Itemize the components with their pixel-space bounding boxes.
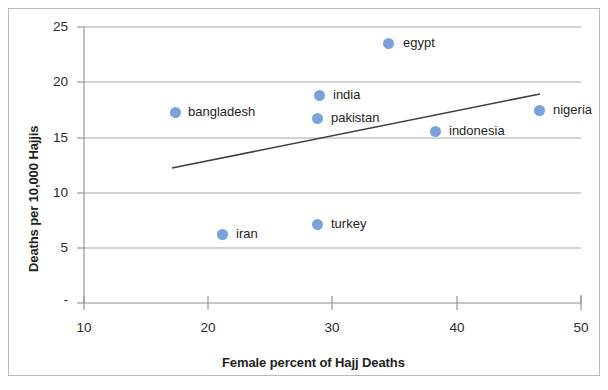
y-tick-marks (77, 27, 84, 303)
data-label-turkey: turkey (331, 216, 366, 231)
x-axis-title: Female percent of Hajj Deaths (222, 355, 405, 370)
y-axis-title: Deaths per 10,000 Hajjis (26, 126, 41, 272)
x-tick-30: 30 (312, 320, 352, 335)
y-tick-0: - (38, 292, 68, 307)
y-tick-15: 15 (38, 130, 68, 145)
axis-lines (84, 27, 581, 303)
data-point-pakistan (312, 113, 323, 124)
data-point-nigeria (534, 105, 545, 116)
x-tick-10: 10 (64, 320, 104, 335)
y-tick-5: 5 (38, 240, 68, 255)
y-tick-25: 25 (38, 19, 68, 34)
x-tick-50: 50 (561, 320, 601, 335)
data-label-indonesia: indonesia (449, 123, 505, 138)
data-label-iran: iran (236, 226, 258, 241)
x-tick-20: 20 (188, 320, 228, 335)
gridlines (84, 27, 581, 248)
data-point-india (314, 90, 325, 101)
data-label-india: india (333, 87, 360, 102)
y-tick-20: 20 (38, 74, 68, 89)
data-label-bangladesh: bangladesh (188, 104, 255, 119)
data-label-pakistan: pakistan (331, 110, 379, 125)
data-point-egypt (383, 38, 394, 49)
scatter-chart-figure: 25 20 15 10 5 - 10 20 30 40 50 Deaths pe… (0, 0, 608, 390)
data-point-iran (217, 229, 228, 240)
x-tick-40: 40 (437, 320, 477, 335)
data-point-indonesia (430, 126, 441, 137)
data-point-bangladesh (170, 107, 181, 118)
y-tick-10: 10 (38, 185, 68, 200)
data-point-turkey (312, 219, 323, 230)
data-label-nigeria: nigeria (553, 102, 592, 117)
data-label-egypt: egypt (403, 35, 435, 50)
